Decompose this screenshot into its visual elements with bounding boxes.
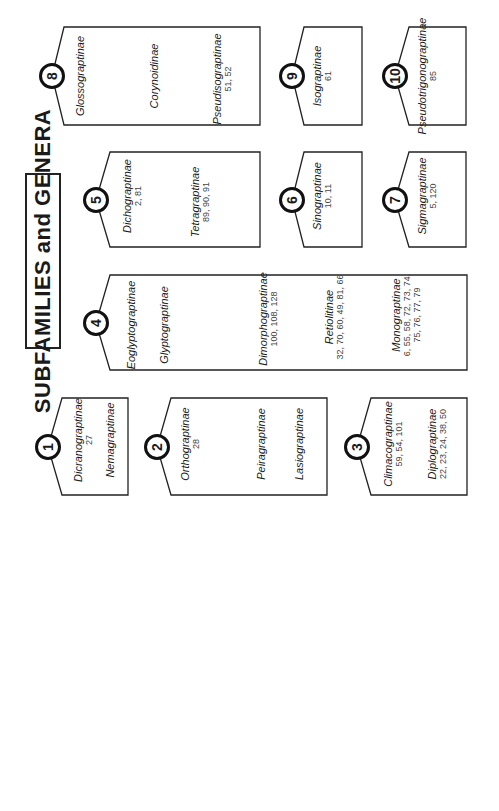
group-number: 9 bbox=[285, 72, 299, 80]
group-1-box: 1 Dicranograptinae27 Nemagraptinae bbox=[48, 398, 129, 496]
group-number: 5 bbox=[89, 196, 103, 204]
subfamily-entry: Lasiograptinae bbox=[293, 408, 305, 480]
subfamily-entry: Retiolitinae32, 70, 60, 49, 81, 66 bbox=[323, 274, 345, 359]
genera-numbers: 59, 54, 101 bbox=[394, 401, 404, 487]
group-4-box: 4 Eoglyptograptinae Glyptograptinae Dimo… bbox=[96, 275, 468, 371]
group-number: 10 bbox=[388, 68, 402, 84]
group-6-number-badge: 6 bbox=[279, 187, 305, 213]
group-1-number-badge: 1 bbox=[35, 434, 61, 460]
subfamily-entry: Isograptinae61 bbox=[311, 46, 333, 107]
genera-numbers: 27 bbox=[84, 398, 94, 482]
subfamily-name: Sigmagraptinae bbox=[416, 157, 428, 234]
subfamily-name: Climacograptinae bbox=[382, 401, 394, 487]
subfamily-name: Diplograptinae bbox=[426, 409, 438, 480]
subfamily-entry: Monograptinae6, 55, 58, 72, 73, 74,75, 7… bbox=[390, 274, 422, 357]
group-10-number-badge: 10 bbox=[382, 63, 408, 89]
genera-numbers: 61 bbox=[323, 46, 333, 107]
group-7-number-badge: 7 bbox=[382, 187, 408, 213]
subfamily-entry: Tetragraptinae89, 90, 91 bbox=[189, 167, 211, 238]
subfamily-name: Nemagraptinae bbox=[104, 402, 116, 477]
group-number: 4 bbox=[89, 319, 103, 327]
group-number: 1 bbox=[41, 443, 55, 451]
group-3-number-badge: 3 bbox=[344, 434, 370, 460]
group-number: 7 bbox=[388, 196, 402, 204]
group-8-number-badge: 8 bbox=[39, 63, 65, 89]
subfamily-entry: Glyptograptinae bbox=[158, 286, 170, 364]
subfamily-name: Tetragraptinae bbox=[189, 167, 201, 238]
subfamily-entry: Peiragraptinae bbox=[255, 408, 267, 480]
subfamily-name: Orthograptinae bbox=[179, 407, 191, 480]
group-number: 3 bbox=[350, 443, 364, 451]
group-number: 2 bbox=[150, 443, 164, 451]
subfamily-name: Pseudisograptinae bbox=[211, 33, 223, 124]
genera-numbers: 85 bbox=[428, 18, 438, 135]
subfamily-entry: Corynoidinae bbox=[148, 44, 160, 109]
genera-numbers: 22, 23, 24, 38, 50 bbox=[438, 409, 448, 480]
group-5-number-badge: 5 bbox=[83, 187, 109, 213]
genera-numbers: 10, 11 bbox=[323, 162, 333, 230]
genera-numbers: 51, 52 bbox=[223, 33, 233, 124]
subfamily-name: Eoglyptograptinae bbox=[125, 281, 137, 370]
genera-numbers: 32, 70, 60, 49, 81, 66 bbox=[335, 274, 345, 359]
subfamily-entry: Dichograptinae2, 81 bbox=[121, 159, 143, 233]
subfamily-entry: Sinograptinae10, 11 bbox=[311, 162, 333, 230]
group-6-box: 6 Sinograptinae10, 11 bbox=[292, 152, 363, 248]
group-2-box: 2 Orthograptinae28 Peiragraptinae Lasiog… bbox=[157, 398, 328, 496]
group-2-number-badge: 2 bbox=[144, 434, 170, 460]
genera-numbers: 75, 76, 77, 79 bbox=[412, 274, 422, 357]
genera-numbers: 100, 108, 128 bbox=[269, 272, 279, 366]
subfamily-entry: Orthograptinae28 bbox=[179, 407, 201, 480]
subfamily-entry: Sigmagraptinae5, 120 bbox=[416, 157, 438, 234]
group-8-box: 8 Glossograptinae Corynoidinae Pseudisog… bbox=[52, 27, 261, 126]
subfamily-entry: Climacograptinae59, 54, 101 bbox=[382, 401, 404, 487]
subfamily-name: Sinograptinae bbox=[311, 162, 323, 230]
genera-numbers: 6, 55, 58, 72, 73, 74, bbox=[402, 274, 412, 357]
subfamily-entry: Pseudotrigonograptinae85 bbox=[416, 18, 438, 135]
pentagon-outline bbox=[357, 398, 468, 496]
subfamily-name: Glossograptinae bbox=[74, 36, 86, 116]
group-number: 6 bbox=[285, 196, 299, 204]
group-4-number-badge: 4 bbox=[83, 310, 109, 336]
genera-numbers: 5, 120 bbox=[428, 157, 438, 234]
subfamily-name: Retiolitinae bbox=[323, 274, 335, 359]
subfamily-name: Peiragraptinae bbox=[255, 408, 267, 480]
group-9-box: 9 Isograptinae61 bbox=[292, 27, 363, 126]
subfamily-name: Lasiograptinae bbox=[293, 408, 305, 480]
genera-numbers: 2, 81 bbox=[133, 159, 143, 233]
subfamily-name: Pseudotrigonograptinae bbox=[416, 18, 428, 135]
subfamily-name: Corynoidinae bbox=[148, 44, 160, 109]
subfamily-name: Dichograptinae bbox=[121, 159, 133, 233]
group-9-number-badge: 9 bbox=[279, 63, 305, 89]
subfamily-entry: Pseudisograptinae51, 52 bbox=[211, 33, 233, 124]
subfamily-name: Monograptinae bbox=[390, 274, 402, 357]
subfamily-entry: Eoglyptograptinae bbox=[125, 281, 137, 370]
subfamily-entry: Glossograptinae bbox=[74, 36, 86, 116]
group-10-box: 10 Pseudotrigonograptinae85 bbox=[395, 27, 467, 126]
subfamily-name: Isograptinae bbox=[311, 46, 323, 107]
title-text: SUBFAMILIES and GENERA bbox=[30, 109, 56, 413]
genera-numbers: 28 bbox=[191, 407, 201, 480]
diagram-title: SUBFAMILIES and GENERA bbox=[25, 173, 61, 349]
subfamily-name: Dicranograptinae bbox=[72, 398, 84, 482]
group-5-box: 5 Dichograptinae2, 81 Tetragraptinae89, … bbox=[96, 152, 261, 248]
subfamily-entry: Dimorphograptinae100, 108, 128 bbox=[257, 272, 279, 366]
group-number: 8 bbox=[45, 72, 59, 80]
subfamily-entry: Nemagraptinae bbox=[104, 402, 116, 477]
subfamily-entry: Diplograptinae22, 23, 24, 38, 50 bbox=[426, 409, 448, 480]
subfamily-name: Glyptograptinae bbox=[158, 286, 170, 364]
subfamily-entry: Dicranograptinae27 bbox=[72, 398, 94, 482]
genera-numbers: 89, 90, 91 bbox=[201, 167, 211, 238]
group-7-box: 7 Sigmagraptinae5, 120 bbox=[395, 152, 467, 248]
subfamily-name: Dimorphograptinae bbox=[257, 272, 269, 366]
group-3-box: 3 Climacograptinae59, 54, 101 Diplograpt… bbox=[357, 398, 468, 496]
